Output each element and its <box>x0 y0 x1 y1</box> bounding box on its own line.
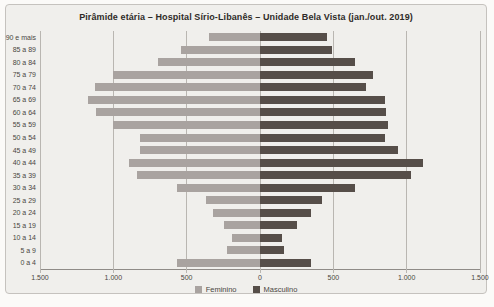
pyramid-row <box>40 144 480 157</box>
pyramid-row <box>40 194 480 207</box>
legend-swatch-feminino <box>195 286 202 293</box>
pyramid-row <box>40 206 480 219</box>
x-tick-label: 0 <box>240 274 280 281</box>
pyramid-row <box>40 31 480 44</box>
age-label: 5 a 9 <box>6 244 36 257</box>
pyramid-row <box>40 232 480 245</box>
x-tick-label: 500 <box>167 274 207 281</box>
age-label: 60 a 64 <box>6 106 36 119</box>
x-tick-label: 500 <box>313 274 353 281</box>
bar-masculino <box>260 108 386 116</box>
age-label: 25 a 29 <box>6 194 36 207</box>
bar-masculino <box>260 209 311 217</box>
bar-feminino <box>206 196 260 204</box>
age-label: 20 a 24 <box>6 206 36 219</box>
pyramid-row <box>40 244 480 257</box>
age-label: 65 a 69 <box>6 94 36 107</box>
bar-masculino <box>260 83 366 91</box>
pyramid-row <box>40 106 480 119</box>
age-label: 50 a 54 <box>6 131 36 144</box>
age-label: 30 a 34 <box>6 181 36 194</box>
bar-feminino <box>158 58 260 66</box>
age-label: 0 a 4 <box>6 257 36 270</box>
bar-feminino <box>113 121 260 129</box>
age-label: 45 a 49 <box>6 144 36 157</box>
bar-masculino <box>260 46 332 54</box>
age-label: 15 a 19 <box>6 219 36 232</box>
legend-label: Feminino <box>206 285 237 294</box>
age-label: 80 a 84 <box>6 56 36 69</box>
age-label: 75 a 79 <box>6 69 36 82</box>
pyramid-row <box>40 94 480 107</box>
age-label: 35 a 39 <box>6 169 36 182</box>
age-label: 70 a 74 <box>6 81 36 94</box>
bar-feminino <box>137 171 260 179</box>
legend: FemininoMasculino <box>6 285 486 294</box>
bar-masculino <box>260 33 327 41</box>
pyramid-row <box>40 169 480 182</box>
bar-masculino <box>260 71 373 79</box>
pyramid-row <box>40 156 480 169</box>
legend-item: Masculino <box>253 285 298 294</box>
pyramid-row <box>40 69 480 82</box>
age-axis-labels: 90 e mais85 a 8980 a 8475 a 7970 a 7465 … <box>6 31 36 269</box>
legend-label: Masculino <box>264 285 298 294</box>
bar-feminino <box>209 33 260 41</box>
x-tick-label: 1.500 <box>20 274 60 281</box>
pyramid-row <box>40 257 480 270</box>
age-label: 90 e mais <box>6 31 36 44</box>
bar-feminino <box>224 221 260 229</box>
bar-masculino <box>260 121 388 129</box>
bar-feminino <box>177 259 260 267</box>
pyramid-row <box>40 81 480 94</box>
x-tick-label: 1.500 <box>460 274 494 281</box>
bar-masculino <box>260 96 385 104</box>
bar-masculino <box>260 58 355 66</box>
bar-feminino <box>177 184 260 192</box>
pyramid-rows <box>40 31 480 269</box>
age-label: 40 a 44 <box>6 156 36 169</box>
bar-masculino <box>260 146 398 154</box>
bar-masculino <box>260 246 284 254</box>
age-label: 85 a 89 <box>6 44 36 57</box>
bar-feminino <box>140 146 260 154</box>
bar-masculino <box>260 234 282 242</box>
bar-feminino <box>227 246 260 254</box>
legend-swatch-masculino <box>253 286 260 293</box>
bar-masculino <box>260 196 322 204</box>
age-label: 55 a 59 <box>6 119 36 132</box>
bar-feminino <box>129 159 260 167</box>
bar-feminino <box>232 234 260 242</box>
bar-masculino <box>260 184 355 192</box>
pyramid-row <box>40 219 480 232</box>
bar-feminino <box>113 71 260 79</box>
pyramid-row <box>40 119 480 132</box>
pyramid-row <box>40 181 480 194</box>
plot-area <box>40 31 480 270</box>
bar-masculino <box>260 159 423 167</box>
bar-feminino <box>140 134 260 142</box>
x-tick-label: 1.000 <box>93 274 133 281</box>
bar-feminino <box>181 46 260 54</box>
legend-item: Feminino <box>195 285 237 294</box>
bar-masculino <box>260 171 411 179</box>
bar-feminino <box>88 96 260 104</box>
bar-masculino <box>260 221 297 229</box>
pyramid-row <box>40 131 480 144</box>
bar-feminino <box>213 209 260 217</box>
bar-feminino <box>96 108 260 116</box>
bar-masculino <box>260 134 385 142</box>
bar-feminino <box>95 83 260 91</box>
bar-masculino <box>260 259 311 267</box>
age-label: 10 a 14 <box>6 232 36 245</box>
chart-card: Pirâmide etária – Hospital Sírio-Libanês… <box>5 4 487 294</box>
x-tick-label: 1.000 <box>387 274 427 281</box>
chart-title: Pirâmide etária – Hospital Sírio-Libanês… <box>6 12 486 22</box>
pyramid-row <box>40 44 480 57</box>
pyramid-row <box>40 56 480 69</box>
